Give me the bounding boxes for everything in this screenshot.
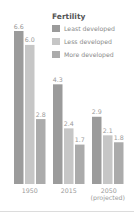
fertility-chart: 6.66.02.84.32.41.72.92.11.8 195020152050…: [0, 0, 134, 217]
bar-least-developed-0: [14, 31, 24, 184]
legend-swatch: [52, 38, 60, 45]
value-label: 6.0: [25, 36, 35, 43]
legend-label: More developed: [64, 51, 114, 58]
bar-less-developed-2: [103, 135, 113, 184]
value-label: 2.8: [36, 111, 46, 118]
x-tick-label: 2050: [101, 187, 117, 194]
value-label: 4.3: [53, 76, 63, 83]
value-label: 2.4: [64, 120, 74, 127]
legend-item: Less developed: [52, 38, 112, 45]
x-tick-label: 1950: [22, 187, 38, 194]
bar-more-developed-1: [75, 145, 85, 184]
legend-item: Least developed: [52, 25, 115, 32]
legend-item: More developed: [52, 51, 114, 58]
value-label: 1.7: [75, 136, 85, 143]
x-tick-labels-layer: 195020152050(projected): [22, 187, 125, 202]
value-label: 6.6: [14, 23, 24, 30]
value-label: 1.8: [114, 134, 124, 141]
x-tick-label: (projected): [90, 194, 125, 202]
value-label: 2.1: [103, 127, 113, 134]
divider: [0, 211, 134, 212]
bar-less-developed-1: [64, 128, 74, 184]
bar-less-developed-0: [25, 45, 35, 184]
x-tick-label: 2015: [61, 187, 77, 194]
legend-swatch: [52, 51, 60, 58]
legend-swatch: [52, 25, 60, 32]
bar-more-developed-0: [36, 119, 46, 184]
legend-title: Fertility: [52, 12, 85, 21]
bar-least-developed-2: [92, 117, 102, 184]
legend-label: Least developed: [64, 25, 115, 32]
legend-label: Less developed: [64, 38, 112, 45]
value-label: 2.9: [92, 108, 102, 115]
bar-least-developed-1: [53, 84, 63, 184]
bar-more-developed-2: [114, 142, 124, 184]
